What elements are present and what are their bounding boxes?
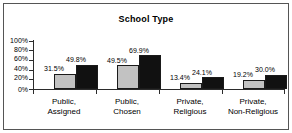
- x-axis-separator-4: [284, 89, 285, 94]
- x-category-label-private-nonreligious: Private, Non-Religious: [210, 97, 292, 117]
- x-axis-separator-0: [33, 89, 34, 94]
- bar-public-chosen-series2: [139, 55, 161, 89]
- chart-figure: School Type 100% 80% 60% 40% 20% 0% 31.5…: [0, 0, 292, 133]
- bar-public-assigned-series2: [76, 65, 98, 89]
- x-category-line-1: Private,: [210, 97, 292, 107]
- y-tick-label-100: 100%: [0, 37, 28, 44]
- y-tick-label-40: 40%: [0, 65, 28, 72]
- value-label-private-nonreligious-series2: 30.0%: [248, 66, 282, 73]
- bar-private-nonreligious-series1: [243, 80, 265, 89]
- value-label-public-chosen-series1: 49.5%: [100, 57, 134, 64]
- x-axis-separator-3: [222, 89, 223, 94]
- bar-private-nonreligious-series2: [265, 75, 287, 89]
- bar-public-chosen-series1: [117, 65, 139, 89]
- x-axis-separator-1: [96, 89, 97, 94]
- value-label-public-assigned-series2: 49.8%: [59, 56, 93, 63]
- bar-private-religious-series1: [180, 83, 202, 89]
- x-category-line-2: Non-Religious: [210, 107, 292, 117]
- bar-private-religious-series2: [202, 77, 224, 89]
- bar-public-assigned-series1: [54, 74, 76, 89]
- y-tick-label-60: 60%: [0, 55, 28, 62]
- y-tick-label-20: 20%: [0, 74, 28, 81]
- y-tick-label-0: 0%: [0, 86, 28, 93]
- value-label-public-assigned-series1: 31.5%: [37, 65, 71, 72]
- x-axis-separator-2: [159, 89, 160, 94]
- chart-title: School Type: [0, 14, 292, 24]
- value-label-public-chosen-series2: 69.9%: [122, 47, 156, 54]
- value-label-private-religious-series2: 24.1%: [185, 69, 219, 76]
- y-tick-label-80: 80%: [0, 46, 28, 53]
